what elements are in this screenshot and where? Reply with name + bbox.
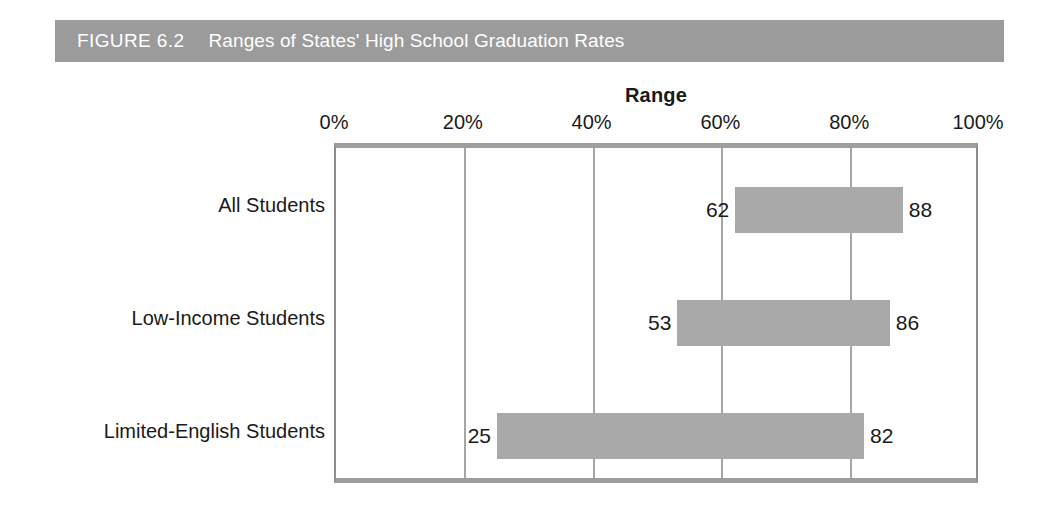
bar-high-value-label: 82 — [864, 413, 893, 459]
x-tick-label: 60% — [700, 111, 740, 134]
x-axis-tick-labels: 0%20%40%60%80%100% — [0, 111, 1052, 137]
x-tick-label: 20% — [443, 111, 483, 134]
bar-low-value-label: 62 — [706, 187, 735, 233]
bar-row: 6288 — [336, 187, 976, 233]
x-axis-title: Range — [334, 84, 978, 107]
bar-high-value-label: 86 — [890, 300, 919, 346]
range-bar-chart: Range 0%20%40%60%80%100% All StudentsLow… — [0, 0, 1052, 518]
plot-inner: 628853862582 — [336, 148, 976, 478]
category-label: All Students — [218, 182, 325, 228]
x-tick-label: 100% — [952, 111, 1003, 134]
range-bar[interactable] — [735, 187, 902, 233]
category-label: Limited-English Students — [104, 408, 325, 454]
bar-low-value-label: 53 — [648, 300, 677, 346]
range-bar[interactable] — [677, 300, 890, 346]
bar-row: 2582 — [336, 413, 976, 459]
category-axis-labels: All StudentsLow-Income StudentsLimited-E… — [0, 143, 325, 483]
range-bar[interactable] — [497, 413, 864, 459]
x-tick-label: 0% — [320, 111, 349, 134]
bar-high-value-label: 88 — [903, 187, 932, 233]
category-label: Low-Income Students — [132, 295, 325, 341]
plot-area: 628853862582 — [334, 143, 978, 483]
x-tick-label: 80% — [829, 111, 869, 134]
bar-low-value-label: 25 — [468, 413, 497, 459]
bar-row: 5386 — [336, 300, 976, 346]
x-tick-label: 40% — [572, 111, 612, 134]
